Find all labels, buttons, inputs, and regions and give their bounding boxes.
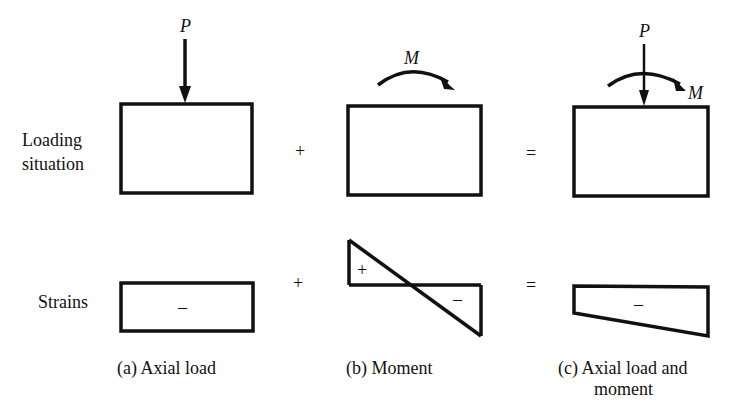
- caption-a: (a) Axial load: [117, 357, 216, 379]
- negative-sign: –: [178, 296, 187, 318]
- negative-sign: –: [453, 288, 462, 310]
- caption-c-cont: moment: [594, 378, 653, 400]
- force-label: P: [180, 15, 191, 37]
- moment-label: M: [404, 47, 419, 69]
- plus-operator: +: [293, 272, 303, 294]
- positive-sign: +: [357, 259, 367, 281]
- force-arrow-icon: [179, 39, 191, 103]
- diagram-canvas: [0, 0, 744, 413]
- row-label-strains: Strains: [38, 291, 88, 313]
- caption-b: (b) Moment: [346, 357, 432, 379]
- strain-diagram-axial: [121, 283, 253, 331]
- moment-label: M: [688, 82, 703, 104]
- negative-sign: –: [634, 293, 643, 315]
- row-label-loading: Loading: [22, 129, 82, 151]
- section-box-moment: [348, 106, 481, 195]
- equals-operator: =: [526, 142, 536, 164]
- force-label: P: [639, 20, 650, 42]
- section-box-axial: [121, 104, 252, 193]
- section-box-combined: [574, 107, 708, 196]
- moment-arrow-icon: [378, 72, 455, 90]
- plus-operator: +: [295, 140, 305, 162]
- row-label-loading-cont: situation: [22, 153, 84, 175]
- equals-operator: =: [526, 274, 536, 296]
- moment-arrow-icon: [608, 73, 686, 91]
- caption-c: (c) Axial load and: [558, 357, 687, 379]
